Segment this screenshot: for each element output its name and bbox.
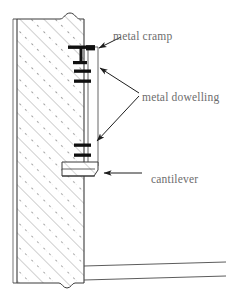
label-metal-dowelling: metal dowelling (142, 91, 219, 104)
wall-bottom-break-line (17, 283, 84, 288)
label-cantilever: cantilever (151, 173, 198, 185)
label-metal-cramp: metal cramp (113, 30, 172, 43)
dowel-lower-2 (74, 154, 91, 157)
cantilever-slab (62, 162, 98, 176)
wall-section-drawing: metal cramp metal dowelling cantilever (0, 0, 229, 300)
cramp-vertical-leg (80, 46, 83, 63)
cramp-hook-end (86, 45, 95, 50)
annotation-leaders (97, 37, 142, 173)
leader-metal-dowelling-upper (100, 68, 139, 93)
dowel-upper-2 (74, 80, 91, 83)
floor-slab-edge (84, 262, 226, 280)
dowel-lower-1 (74, 144, 91, 147)
cladding-panel (88, 47, 98, 166)
masonry-wall (13, 13, 84, 288)
wall-hatch-fill (17, 13, 84, 288)
leader-metal-dowelling-lower (97, 96, 139, 141)
floor-slab-top-line (84, 262, 226, 266)
cramp-lower-plate (73, 61, 87, 64)
dowel-upper-1 (74, 70, 91, 73)
floor-slab-bottom-line (84, 276, 226, 280)
